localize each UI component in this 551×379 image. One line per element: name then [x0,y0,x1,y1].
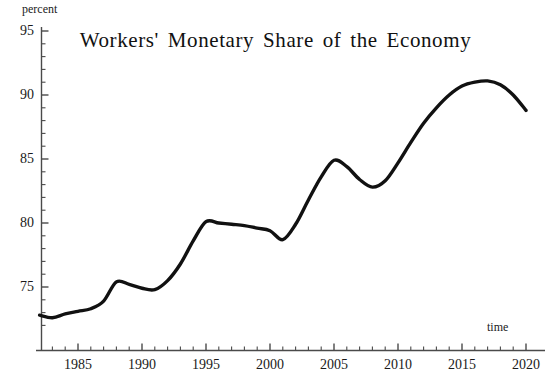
chart-figure: percent time Workers' Monetary Share of … [0,0,551,379]
x-axis-tick-label: 2015 [439,357,485,373]
y-axis-tick-label: 95 [8,23,34,39]
chart-plot-area [0,0,551,379]
y-axis-label: percent [22,3,57,16]
x-axis-tick-label: 2000 [247,357,293,373]
data-line-series-0 [40,81,526,318]
chart-title: Workers' Monetary Share of the Economy [0,28,551,53]
x-axis-tick-label: 2005 [311,357,357,373]
y-axis-tick-label: 80 [8,215,34,231]
y-axis-tick-label: 90 [8,87,34,103]
y-axis-ticks [42,31,49,325]
x-axis-label: time [487,321,508,334]
y-axis-tick-label: 75 [8,279,34,295]
x-axis-ticks [52,344,526,351]
x-axis-tick-label: 1995 [183,357,229,373]
axis-lines [36,27,545,351]
y-axis-tick-label: 85 [8,151,34,167]
x-axis-tick-label: 2020 [503,357,549,373]
x-axis-tick-label: 2010 [375,357,421,373]
x-axis-tick-label: 1990 [119,357,165,373]
x-axis-tick-label: 1985 [55,357,101,373]
